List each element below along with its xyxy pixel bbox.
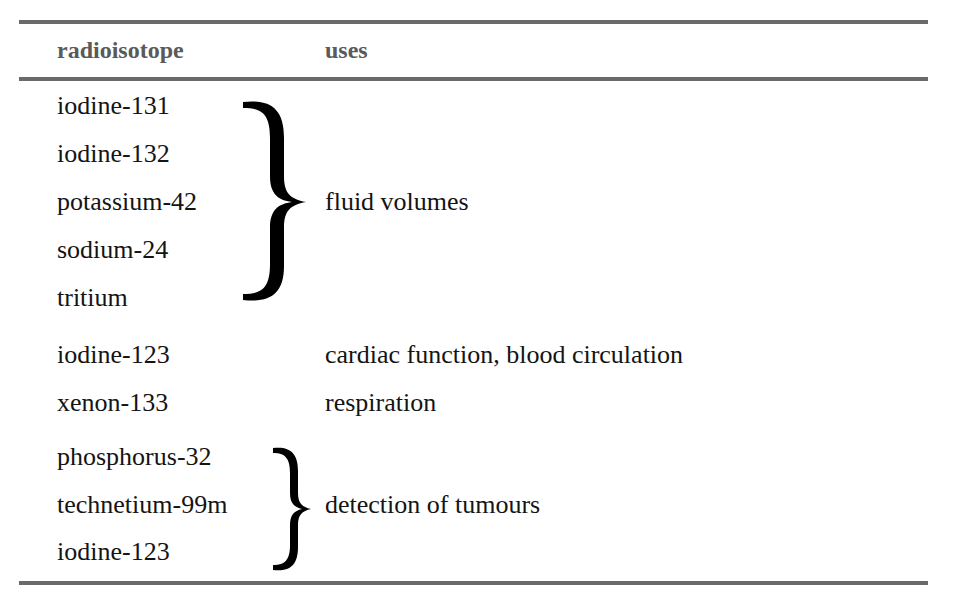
use-cell: fluid volumes (325, 187, 469, 217)
isotope-cell: xenon-133 (57, 388, 168, 418)
isotope-cell: iodine-123 (57, 537, 170, 567)
small-brace-icon (270, 445, 314, 573)
use-cell: detection of tumours (325, 490, 540, 520)
header-radioisotope: radioisotope (57, 36, 184, 64)
isotope-cell: technetium-99m (57, 490, 227, 520)
use-cell: cardiac function, blood circulation (325, 340, 683, 370)
large-brace-icon (240, 98, 310, 304)
top-rule (19, 20, 928, 24)
header-uses: uses (325, 36, 368, 64)
isotope-cell: iodine-132 (57, 139, 170, 169)
isotope-cell: sodium-24 (57, 235, 168, 265)
isotope-cell: phosphorus-32 (57, 442, 212, 472)
isotope-cell: tritium (57, 283, 128, 313)
isotope-cell: iodine-131 (57, 91, 170, 121)
header-rule (19, 77, 928, 81)
isotope-cell: iodine-123 (57, 340, 170, 370)
isotope-cell: potassium-42 (57, 187, 197, 217)
use-cell: respiration (325, 388, 436, 418)
bottom-rule (19, 581, 928, 585)
